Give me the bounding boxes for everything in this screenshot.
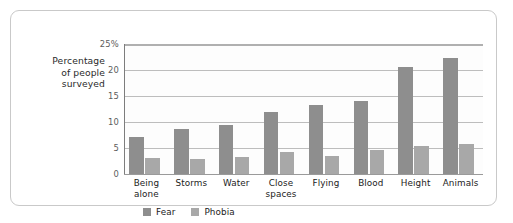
category-label: Storms [169, 178, 214, 189]
bar-fear[interactable] [264, 112, 279, 174]
y-tick-label-10: 10 [108, 117, 119, 127]
category-label-line: Water [214, 178, 259, 189]
y-axis-label-line-2: of people [23, 67, 105, 79]
y-tick-label-15: 15 [108, 91, 119, 101]
category-label-line: alone [124, 189, 169, 200]
x-axis-categories: BeingaloneStormsWaterClosespacesFlyingBl… [124, 178, 483, 204]
bar-phobia[interactable] [190, 159, 205, 174]
y-tick-label-5: 5 [113, 143, 119, 153]
bar-group [443, 44, 474, 174]
category-label-line: Blood [348, 178, 393, 189]
chart-figure-frame: Percentage of people surveyed 0510152025… [10, 10, 497, 206]
category-label: Blood [348, 178, 393, 189]
bar-fear[interactable] [129, 137, 144, 174]
bar-group [129, 44, 160, 174]
y-axis-label-line-1: Percentage [23, 55, 105, 67]
bar-phobia[interactable] [325, 156, 340, 174]
bar-phobia[interactable] [280, 152, 295, 174]
y-axis-label-line-3: surveyed [23, 78, 105, 90]
y-tick-label-20: 20 [108, 65, 119, 75]
category-label: Closespaces [259, 178, 304, 199]
bar-group [398, 44, 429, 174]
y-axis-label: Percentage of people surveyed [23, 55, 105, 90]
legend-label: Phobia [204, 207, 234, 217]
bar-phobia[interactable] [414, 146, 429, 174]
bar-phobia[interactable] [235, 157, 250, 174]
bar-fear[interactable] [219, 125, 234, 174]
category-label-line: Close [259, 178, 304, 189]
category-label-line: Storms [169, 178, 214, 189]
bar-fear[interactable] [174, 129, 189, 174]
bar-group [174, 44, 205, 174]
fear-swatch [143, 208, 151, 216]
category-label-line: spaces [259, 189, 304, 200]
bar-phobia[interactable] [370, 150, 385, 174]
category-label: Animals [438, 178, 483, 189]
phobia-swatch [191, 208, 199, 216]
category-label-line: Being [124, 178, 169, 189]
plot-area: 0510152025% [124, 44, 483, 174]
category-label-line: Animals [438, 178, 483, 189]
chart-legend: FearPhobia [143, 207, 235, 217]
bar-phobia[interactable] [145, 158, 160, 174]
legend-item-phobia[interactable]: Phobia [191, 207, 234, 217]
bar-fear[interactable] [309, 105, 324, 174]
bar-group [219, 44, 250, 174]
y-tick-label-0: 0 [113, 169, 119, 179]
category-label: Flying [304, 178, 349, 189]
x-axis-line [124, 174, 483, 175]
category-label: Water [214, 178, 259, 189]
bar-fear[interactable] [398, 67, 413, 174]
category-label: Height [393, 178, 438, 189]
bar-phobia[interactable] [459, 144, 474, 174]
y-tick-label-25: 25% [100, 39, 119, 49]
category-label-line: Height [393, 178, 438, 189]
legend-label: Fear [156, 207, 175, 217]
category-label: Beingalone [124, 178, 169, 199]
bar-group [354, 44, 385, 174]
bar-fear[interactable] [443, 58, 458, 174]
category-label-line: Flying [304, 178, 349, 189]
bars-layer [124, 44, 483, 174]
legend-item-fear[interactable]: Fear [143, 207, 175, 217]
bar-group [309, 44, 340, 174]
bar-fear[interactable] [354, 101, 369, 174]
bar-group [264, 44, 295, 174]
